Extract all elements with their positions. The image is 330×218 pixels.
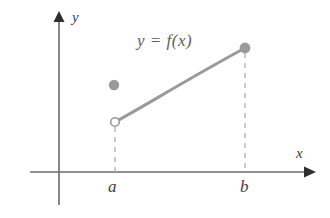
function-graph-figure: y x a b y = f(x)	[0, 0, 330, 218]
x-tick-label-b: b	[240, 178, 249, 195]
function-curve	[115, 48, 245, 122]
curve-equation-label: y = f(x)	[137, 32, 192, 49]
x-tick-label-a: a	[108, 178, 117, 195]
y-axis-arrowhead	[54, 11, 65, 22]
filled-point-at-b	[240, 43, 251, 54]
x-axis-arrowhead	[304, 167, 316, 178]
open-point-at-a	[111, 118, 120, 127]
isolated-filled-point	[109, 80, 119, 90]
y-axis-label: y	[72, 10, 79, 25]
x-axis-label: x	[296, 146, 303, 161]
